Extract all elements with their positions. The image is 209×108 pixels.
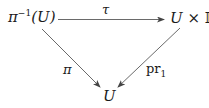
label-pr1: pr1 (146, 62, 166, 75)
pr-subscript: 1 (161, 69, 167, 79)
node-product: U × 𝔽 (170, 11, 209, 26)
product-left: U (170, 9, 183, 27)
node-preimage: π−1(U) (8, 10, 56, 25)
times-symbol: × (187, 9, 200, 27)
field-symbol: 𝔽 (205, 9, 209, 27)
inverse-exponent: −1 (18, 8, 31, 18)
arrow-pi (42, 29, 100, 87)
commutative-diagram: π−1(U) τ U × 𝔽 π pr1 U (0, 0, 209, 108)
pi-symbol: π (8, 8, 18, 26)
pr-text: pr (146, 61, 161, 76)
preimage-arg: (U) (31, 8, 55, 26)
label-pi: π (63, 63, 72, 76)
node-base-U: U (103, 89, 116, 104)
arrow-pr1 (118, 28, 180, 87)
label-tau: τ (102, 3, 109, 16)
